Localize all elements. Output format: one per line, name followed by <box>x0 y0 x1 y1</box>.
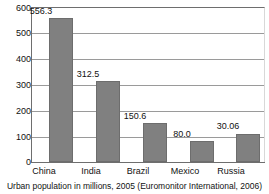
bar-value-label-china: 556.3 <box>23 7 59 16</box>
y-axis-tick-label: 500 <box>5 29 31 38</box>
bar-russia <box>236 134 260 163</box>
x-axis-line <box>31 162 265 163</box>
y-axis-tick-label: 300 <box>5 81 31 90</box>
y-axis-tick-label: 400 <box>5 55 31 64</box>
bar-value-label-russia: 30.06 <box>209 122 247 131</box>
chart-figure: 600 500 400 300 200 100 0 556.3 312.5 15 <box>0 0 269 194</box>
bar-value-label-brazil: 150.6 <box>117 112 153 121</box>
bar-value-label-india: 312.5 <box>70 70 106 79</box>
x-axis-label-mexico: Mexico <box>163 166 207 176</box>
x-axis-label-india: India <box>69 166 113 176</box>
y-axis-tick-label: 200 <box>5 107 31 116</box>
y-axis-tick-label: 100 <box>5 133 31 142</box>
x-axis-label-russia: Russia <box>209 166 253 176</box>
plot-area <box>31 7 265 162</box>
x-axis-label-china: China <box>22 166 66 176</box>
bar-chart: 600 500 400 300 200 100 0 556.3 312.5 15 <box>0 2 269 172</box>
bar-brazil <box>143 123 167 162</box>
bar-value-label-mexico: 80.0 <box>164 130 200 139</box>
chart-caption: Urban population in millions, 2005 (Euro… <box>0 181 269 191</box>
bar-china <box>49 18 73 162</box>
bar-india <box>96 81 120 162</box>
bar-mexico <box>190 141 214 162</box>
x-axis-label-brazil: Brazil <box>116 166 160 176</box>
